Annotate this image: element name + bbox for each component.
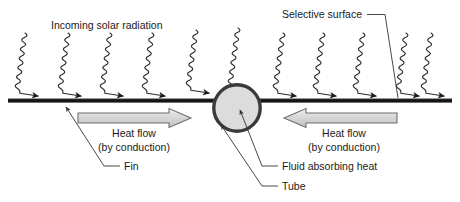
selective-surface-leader bbox=[367, 15, 398, 99]
label-tube: Tube bbox=[282, 180, 306, 192]
label-heat-flow-right-line2: (by conduction) bbox=[308, 141, 380, 153]
solar-ray-arrow bbox=[273, 33, 296, 96]
solar-collector-diagram: Incoming solar radiation Selective surfa… bbox=[0, 0, 460, 202]
tube-circle bbox=[213, 84, 262, 133]
label-selective-surface: Selective surface bbox=[282, 8, 362, 20]
label-fin: Fin bbox=[124, 160, 139, 172]
label-heat-flow-left-line1: Heat flow bbox=[112, 127, 156, 139]
label-incoming-solar-radiation: Incoming solar radiation bbox=[51, 19, 163, 31]
heat-flow-arrow-right bbox=[284, 109, 397, 128]
solar-ray-arrow bbox=[186, 30, 209, 93]
solar-ray-arrow bbox=[313, 33, 336, 96]
solar-ray-arrow bbox=[421, 33, 444, 96]
diagram-canvas: Incoming solar radiation Selective surfa… bbox=[0, 0, 460, 202]
solar-ray-arrow bbox=[15, 33, 38, 96]
label-fluid-absorbing-heat: Fluid absorbing heat bbox=[282, 160, 377, 172]
solar-ray-arrow bbox=[353, 33, 376, 96]
label-heat-flow-right-line1: Heat flow bbox=[322, 127, 366, 139]
label-heat-flow-left-line2: (by conduction) bbox=[98, 141, 170, 153]
solar-ray-arrow bbox=[228, 28, 251, 91]
solar-ray-arrow bbox=[58, 33, 81, 96]
solar-ray-arrow bbox=[142, 33, 165, 96]
solar-ray-arrow bbox=[396, 33, 419, 96]
solar-ray-arrow bbox=[100, 33, 123, 96]
heat-flow-arrow-left bbox=[78, 109, 191, 128]
